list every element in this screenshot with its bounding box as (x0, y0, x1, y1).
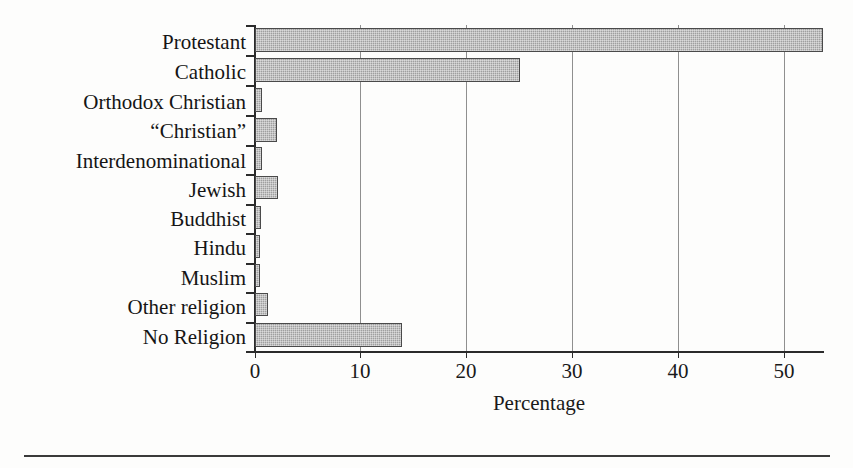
x-tick-label-0: 0 (225, 358, 285, 384)
y-tick-11 (246, 351, 255, 353)
category-label-jewish: Jewish (0, 178, 246, 202)
figure-container: Protestant Catholic Orthodox Christian “… (0, 0, 853, 468)
y-tick-2 (246, 85, 255, 87)
bar-catholic (255, 58, 520, 82)
y-tick-3 (246, 115, 255, 117)
x-tick-label-20: 20 (436, 358, 496, 384)
category-label-orthodox-christian: Orthodox Christian (0, 90, 246, 114)
x-tick-label-40: 40 (648, 358, 708, 384)
y-tick-6 (246, 204, 255, 206)
category-label-no-religion: No Religion (0, 325, 246, 349)
bar-christian-quoted (255, 118, 277, 142)
y-tick-7 (246, 233, 255, 235)
y-tick-8 (246, 263, 255, 265)
gridline-30 (572, 25, 573, 352)
bar-interdenominational (255, 147, 262, 170)
gridline-50 (784, 25, 785, 352)
category-label-catholic: Catholic (0, 60, 246, 84)
x-axis-line (254, 351, 824, 353)
category-label-hindu: Hindu (0, 236, 246, 260)
x-tick-label-50: 50 (754, 358, 814, 384)
y-tick-4 (246, 145, 255, 147)
category-label-protestant: Protestant (0, 30, 246, 54)
bar-orthodox-christian (255, 88, 262, 112)
gridline-40 (678, 25, 679, 352)
category-label-muslim: Muslim (0, 266, 246, 290)
bar-hindu (255, 235, 260, 258)
y-tick-0 (246, 25, 255, 27)
y-tick-10 (246, 322, 255, 324)
bar-jewish (255, 176, 278, 199)
bar-protestant (255, 28, 823, 52)
category-label-other-religion: Other religion (0, 295, 246, 319)
bar-buddhist (255, 206, 261, 229)
category-label-interdenominational: Interdenominational (0, 149, 246, 173)
bar-muslim (255, 264, 260, 287)
y-tick-1 (246, 55, 255, 57)
x-tick-label-10: 10 (330, 358, 390, 384)
category-label-christian-quoted: “Christian” (0, 119, 246, 143)
bar-other-religion (255, 293, 268, 316)
y-tick-9 (246, 292, 255, 294)
bar-no-religion (255, 323, 402, 347)
x-axis-title: Percentage (254, 390, 824, 416)
y-tick-5 (246, 174, 255, 176)
bottom-horizontal-rule (24, 455, 830, 457)
category-label-buddhist: Buddhist (0, 207, 246, 231)
bar-chart-plot-area: Protestant Catholic Orthodox Christian “… (0, 0, 853, 468)
x-tick-label-30: 30 (542, 358, 602, 384)
